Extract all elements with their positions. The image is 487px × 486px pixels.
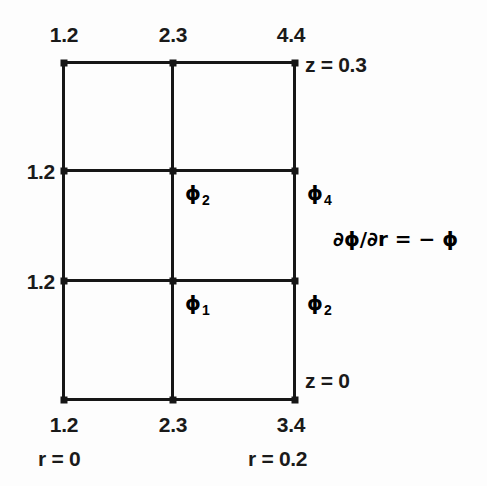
boundary-label-bottom-z: z = 0	[305, 370, 350, 391]
grid-line-top	[62, 61, 296, 64]
grid-line-middle-upper	[62, 169, 296, 172]
right-edge-node-label-phi4: ϕ4	[307, 183, 332, 207]
phi-symbol: ϕ	[185, 291, 201, 315]
boundary-label-left-r: r = 0	[38, 448, 80, 469]
node-mark-bottom-left	[61, 397, 68, 404]
phi-subscript: 2	[202, 192, 210, 208]
left-label-upper: 1.2	[27, 161, 55, 182]
phi-subscript: 4	[324, 192, 332, 208]
grid-line-left	[62, 61, 65, 401]
top-label-1: 1.2	[50, 24, 78, 45]
node-mark-upper-left	[61, 168, 68, 175]
phi-symbol: ϕ	[185, 181, 201, 205]
boundary-label-right-r: r = 0.2	[248, 448, 307, 469]
node-mark-top-right	[292, 60, 299, 67]
right-edge-node-label-phi2: ϕ2	[307, 293, 332, 317]
grid-line-bottom	[62, 398, 296, 401]
phi-symbol: ϕ	[307, 181, 323, 205]
interior-node-label-phi1: ϕ1	[185, 293, 210, 317]
top-label-3: 4.4	[277, 24, 305, 45]
top-label-2: 2.3	[159, 24, 187, 45]
boundary-label-top-z: z = 0.3	[305, 54, 367, 75]
node-mark-lower-middle	[170, 278, 177, 285]
grid-line-right	[293, 61, 296, 401]
node-mark-top-middle	[170, 60, 177, 67]
bottom-label-3: 3.4	[277, 414, 305, 435]
finite-difference-grid-figure: 1.2 2.3 4.4 1.2 2.3 3.4 1.2 1.2 z = 0.3 …	[0, 0, 487, 486]
grid-line-middle-vertical	[171, 61, 174, 401]
node-mark-bottom-middle	[170, 397, 177, 404]
bottom-label-2: 2.3	[159, 414, 187, 435]
node-mark-bottom-right	[292, 397, 299, 404]
phi-subscript: 2	[324, 302, 332, 318]
interior-node-label-phi2: ϕ2	[185, 183, 210, 207]
robin-boundary-condition-equation: ∂ϕ/∂r = − ϕ	[333, 229, 458, 249]
left-label-lower: 1.2	[27, 271, 55, 292]
grid-line-middle-lower	[62, 279, 296, 282]
node-mark-lower-left	[61, 278, 68, 285]
phi-symbol: ϕ	[307, 291, 323, 315]
node-mark-lower-right	[292, 278, 299, 285]
bottom-label-1: 1.2	[50, 414, 78, 435]
node-mark-upper-right	[292, 168, 299, 175]
phi-subscript: 1	[202, 302, 210, 318]
node-mark-top-left	[61, 60, 68, 67]
node-mark-upper-middle	[170, 168, 177, 175]
